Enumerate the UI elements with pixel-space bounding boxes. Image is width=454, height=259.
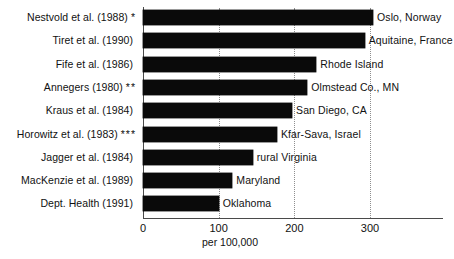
bar[interactable] (143, 127, 277, 142)
bar[interactable] (143, 196, 219, 211)
x-axis-line (143, 218, 443, 219)
category-label: Dept. Health (1991) (40, 195, 136, 211)
bar-value-label: Oklahoma (223, 195, 272, 211)
bar-row: Oklahoma (143, 194, 370, 217)
bar[interactable] (143, 10, 373, 25)
bar-row: San Diego, CA (143, 101, 370, 124)
bar-chart: Nestvold et al. (1988)* Tiret et al. (19… (0, 0, 454, 259)
bar-row: Kfar-Sava, Israel (143, 125, 370, 148)
category-label: Horowitz et al. (1983)*** (17, 126, 136, 142)
plot-area: Oslo, Norway Aquitaine, France Rhode Isl… (143, 8, 370, 218)
category-label: Jagger et al. (1984) (41, 149, 136, 165)
bar[interactable] (143, 173, 232, 188)
bar[interactable] (143, 80, 307, 95)
bar-value-label: San Diego, CA (296, 102, 367, 118)
category-label: Annegers (1980)** (44, 79, 136, 95)
category-label: Kraus et al. (1984) (46, 102, 136, 118)
bar-value-label: Rhode Island (320, 56, 383, 72)
bar-row: Maryland (143, 171, 370, 194)
category-label-column: Nestvold et al. (1988)* Tiret et al. (19… (0, 8, 136, 218)
x-axis-title: per 100,000 (202, 236, 258, 248)
x-tick-label: 100 (209, 222, 227, 234)
bar-row: Rhode Island (143, 55, 370, 78)
x-tick-label: 0 (140, 222, 146, 234)
x-tick-label: 300 (361, 222, 379, 234)
bar[interactable] (143, 150, 253, 165)
bar[interactable] (143, 103, 292, 118)
category-label: MacKenzie et al. (1989) (21, 172, 136, 188)
bar[interactable] (143, 33, 365, 48)
bar-value-label: Oslo, Norway (377, 9, 441, 25)
bar-value-label: Olmstead Co., MN (311, 79, 399, 95)
bar[interactable] (143, 57, 316, 72)
x-tick-label: 200 (285, 222, 303, 234)
category-label: Tiret et al. (1990) (52, 32, 136, 48)
bar-row: Aquitaine, France (143, 31, 370, 54)
bar-value-label: Aquitaine, France (369, 32, 453, 48)
bar-row: Olmstead Co., MN (143, 78, 370, 101)
category-label: Nestvold et al. (1988)* (27, 9, 136, 25)
bar-value-label: Maryland (236, 172, 280, 188)
bar-value-label: rural Virginia (257, 149, 317, 165)
bar-value-label: Kfar-Sava, Israel (281, 126, 361, 142)
bar-row: Oslo, Norway (143, 8, 370, 31)
category-label: Fife et al. (1986) (56, 56, 136, 72)
bar-row: rural Virginia (143, 148, 370, 171)
